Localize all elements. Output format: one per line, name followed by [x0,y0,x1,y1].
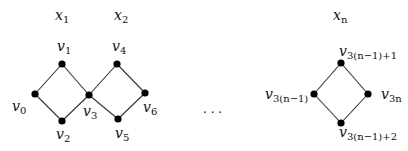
group-label-x2: x2 [114,7,128,25]
label-v0: v0 [12,98,26,116]
node-v3n-1 [310,90,317,97]
ellipsis: · · · [203,106,222,120]
node-v3n [364,90,371,97]
node-v6 [141,89,148,96]
edge-v1-v3 [62,64,89,95]
edge-v3n1p2-v3n [341,94,368,123]
node-v3n-1-plus-1 [337,59,344,66]
label-v3n-1-plus-2: v3(n−1)+2 [339,124,397,142]
label-v6: v6 [143,99,157,117]
label-v2: v2 [56,126,70,144]
node-v4 [113,60,120,67]
edge-v0-v1 [35,64,62,94]
edge-v5-v6 [118,93,145,119]
edge-v3n1-v3n1p1 [314,63,341,94]
node-v1 [58,60,65,67]
node-v5 [114,115,121,122]
edge-v3n1p1-v3n [341,63,368,94]
group-label-x1: x1 [55,7,69,25]
graph-diagram: x1 x2 xn v1 v4 v0 v3 v6 v2 v5 v3(n−1)+1 … [0,0,408,151]
label-v4: v4 [112,38,126,56]
edge-v3n1-v3n1p2 [314,94,341,123]
label-v1: v1 [57,38,71,56]
edge-v0-v2 [35,94,62,121]
label-v5: v5 [115,125,129,143]
label-v3: v3 [83,103,97,121]
node-v0 [31,90,38,97]
label-v3n: v3n [381,86,402,104]
edge-v3-v4 [89,64,117,95]
node-v2 [58,117,65,124]
group-label-xn: xn [333,7,348,25]
label-v3n-1-plus-1: v3(n−1)+1 [339,43,397,61]
label-v3n-1: v3(n−1) [265,86,308,104]
node-v3 [85,91,92,98]
edge-v4-v6 [117,64,145,93]
